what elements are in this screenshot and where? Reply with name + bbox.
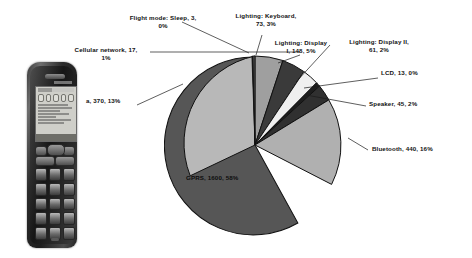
- phone-call-key: [35, 156, 55, 166]
- phone-earpiece: [45, 74, 65, 79]
- phone-key: [63, 183, 75, 196]
- phone-key: [35, 227, 47, 240]
- phone-end-key: [55, 156, 75, 166]
- phone-key: [35, 168, 47, 181]
- label-lcd: LCD, 13, 0%: [381, 69, 461, 77]
- label-lighting-display-2: Lighting: Display II, 61, 2%: [333, 38, 425, 54]
- pie-chart: [164, 54, 346, 236]
- phone-softkey-left: [35, 146, 47, 156]
- phone-key: [49, 183, 61, 196]
- phone-screen-icon: [46, 94, 52, 102]
- phone-screen: [35, 86, 77, 142]
- mobile-phone-photo: [27, 62, 77, 248]
- phone-screen-textline: [38, 113, 69, 115]
- phone-screen-textline: [38, 107, 72, 109]
- phone-screen-textline: [38, 116, 56, 118]
- label-lighting-keyboard: Lighting: Keyboard, 73, 3%: [214, 12, 318, 28]
- leader-bluetooth: [348, 138, 368, 150]
- phone-screen-icon: [53, 94, 59, 102]
- phone-screen-textline: [38, 119, 71, 121]
- phone-screen-textline: [38, 104, 68, 106]
- phone-key: [49, 168, 61, 181]
- label-flight-mode-sleep: Flight mode: Sleep, 3, 0%: [108, 14, 218, 30]
- phone-key: [63, 227, 75, 240]
- phone-body: [27, 62, 77, 248]
- phone-dpad: [47, 144, 65, 156]
- phone-navigation-cluster: [35, 144, 75, 166]
- phone-microphone: [51, 238, 59, 241]
- phone-screen-icon: [38, 94, 44, 102]
- phone-key: [63, 168, 75, 181]
- phone-key: [35, 198, 47, 211]
- phone-screen-textline: [38, 110, 60, 112]
- label-cellular-network: Cellular network, 17, 1%: [58, 46, 154, 62]
- phone-screen-icon-row: [38, 94, 74, 102]
- phone-brand-text: [54, 81, 72, 84]
- phone-screen-icon: [68, 94, 74, 102]
- phone-key: [35, 183, 47, 196]
- phone-key: [63, 198, 75, 211]
- pie-chart-figure: Flight mode: Sleep, 3, 0% Lighting: Keyb…: [0, 0, 472, 258]
- label-speaker: Speaker, 45, 2%: [369, 100, 459, 108]
- leader-lighting-keyboard: [256, 35, 262, 55]
- phone-screen-icon: [61, 94, 67, 102]
- phone-front-panel: [30, 66, 74, 244]
- label-lighting-display-1: Lighting: Display I, 148, 5%: [265, 39, 337, 55]
- phone-key: [49, 212, 61, 225]
- phone-screen-statusbar: [38, 88, 74, 92]
- label-gprs: GPRS, 1600, 58%: [186, 174, 276, 182]
- pie-svg: [164, 54, 346, 236]
- label-a-series: a, 370, 13%: [86, 97, 146, 105]
- phone-key: [35, 212, 47, 225]
- phone-screen-textline: [38, 122, 64, 124]
- label-bluetooth: Bluetooth, 440, 16%: [372, 145, 472, 153]
- phone-key: [63, 212, 75, 225]
- phone-screen-softkey-bar: [36, 134, 76, 141]
- phone-key: [49, 198, 61, 211]
- phone-keypad: [35, 168, 75, 240]
